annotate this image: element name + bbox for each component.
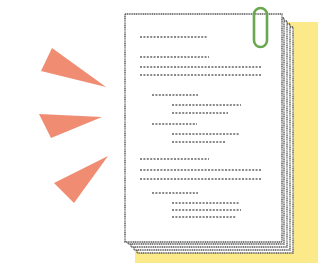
burst-triangle (41, 48, 106, 87)
document-stack-graphic (0, 0, 331, 278)
attention-burst-icon (39, 48, 108, 203)
burst-triangle (39, 114, 102, 138)
burst-triangle (54, 156, 108, 203)
document-illustration (0, 0, 331, 278)
top-page (125, 14, 282, 242)
